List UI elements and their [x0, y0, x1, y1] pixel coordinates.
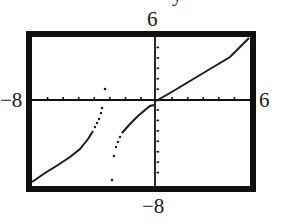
xmax-label: 6	[259, 90, 270, 111]
y-axis-title-cropped: y	[172, 0, 183, 5]
left-branch-dots	[94, 88, 106, 129]
graphing-calculator-plot	[0, 0, 281, 224]
right-branch-curve	[156, 38, 249, 101]
left-branch-curve	[32, 131, 93, 182]
y-axis-ticks	[157, 47, 160, 172]
middle-branch-dots	[111, 136, 122, 182]
ymax-label: 6	[147, 9, 158, 30]
viewing-window-frame	[29, 34, 253, 189]
ymin-label: −8	[142, 196, 164, 217]
middle-branch-curve	[122, 105, 154, 133]
xmin-label: −8	[0, 90, 22, 111]
